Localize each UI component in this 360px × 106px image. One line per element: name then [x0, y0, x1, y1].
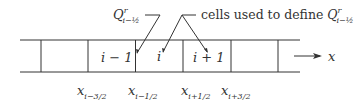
cell-label-i-plus-1: i + 1	[193, 51, 225, 64]
cell-label-i: i	[157, 50, 161, 63]
interface-label: xi+1/2	[181, 84, 210, 97]
cell-label-i-minus-1: i − 1	[101, 51, 133, 64]
interface-label: xi−3/2	[77, 84, 106, 97]
interface-label: xi+3/2	[221, 84, 250, 97]
flux-label-left: Qri−½	[113, 8, 140, 21]
annotation-text: cells used to define Qri−½	[201, 9, 353, 22]
flux-label-right: Qri−½	[327, 7, 353, 22]
q-leader-line	[137, 15, 160, 53]
interface-label: xi−1/2	[128, 84, 157, 97]
axis-label-x: x	[328, 50, 335, 63]
cells-leader-line-i	[163, 15, 196, 52]
